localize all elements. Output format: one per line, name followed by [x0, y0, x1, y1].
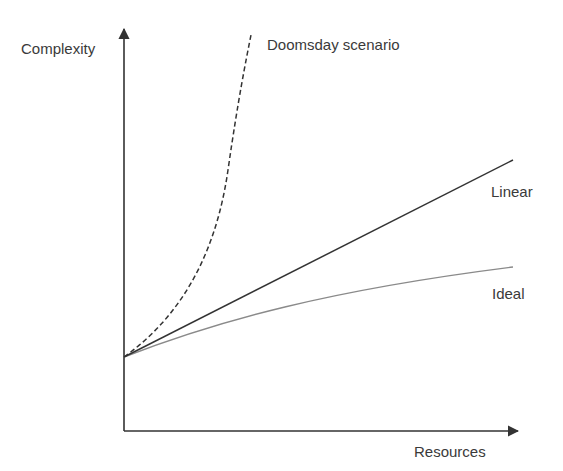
ideal-curve [124, 267, 513, 357]
ideal-label: Ideal [492, 286, 525, 301]
doomsday-label: Doomsday scenario [267, 37, 400, 52]
y-axis-label: Complexity [21, 41, 95, 56]
x-axis-label: Resources [414, 444, 486, 459]
linear-label: Linear [491, 184, 533, 199]
linear-line [124, 160, 513, 357]
doomsday-curve [124, 35, 251, 357]
complexity-resources-diagram [0, 0, 563, 471]
